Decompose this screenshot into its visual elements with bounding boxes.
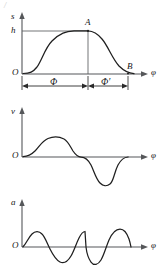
velocity-panel: v O φ	[0, 95, 166, 190]
acceleration-panel: a O φ	[0, 190, 166, 280]
peak-point-label: A	[85, 18, 91, 27]
acceleration-x-axis-label: φ	[151, 241, 156, 250]
displacement-y-axis-arrowhead	[19, 12, 24, 19]
velocity-curve	[23, 137, 128, 186]
acceleration-y-axis-arrowhead	[19, 199, 24, 206]
velocity-origin-label: O	[12, 151, 19, 160]
acceleration-y-axis-label: a	[11, 198, 16, 207]
velocity-x-axis-arrowhead	[141, 154, 148, 159]
cam-motion-diagram-figure: /	[0, 0, 166, 280]
peak-point-marker	[87, 30, 89, 32]
end-point-marker	[127, 73, 129, 75]
height-label: h	[11, 26, 16, 35]
return-angle-label: Φ′	[101, 78, 110, 88]
return-angle-arrowhead-right	[122, 84, 128, 89]
velocity-plot	[0, 95, 166, 190]
displacement-x-axis-arrowhead	[141, 71, 148, 76]
displacement-panel: s h O A B φ Φ Φ′	[0, 0, 166, 95]
rise-angle-arrowhead-right	[82, 84, 88, 89]
velocity-y-axis-arrowhead	[19, 107, 24, 114]
displacement-origin-label: O	[12, 68, 19, 77]
displacement-x-axis-label: φ	[151, 68, 156, 77]
rise-angle-label: Φ	[50, 78, 57, 88]
return-angle-arrowhead-left	[88, 84, 94, 89]
velocity-x-axis-label: φ	[151, 151, 156, 160]
acceleration-origin-label: O	[12, 241, 19, 250]
displacement-y-axis-label: s	[11, 12, 15, 21]
acceleration-plot	[0, 190, 166, 280]
rise-angle-arrowhead-left	[22, 84, 28, 89]
acceleration-x-axis-arrowhead	[141, 244, 148, 249]
displacement-curve	[23, 31, 134, 74]
end-point-label: B	[127, 62, 133, 71]
velocity-y-axis-label: v	[11, 107, 15, 116]
displacement-plot	[0, 0, 166, 95]
